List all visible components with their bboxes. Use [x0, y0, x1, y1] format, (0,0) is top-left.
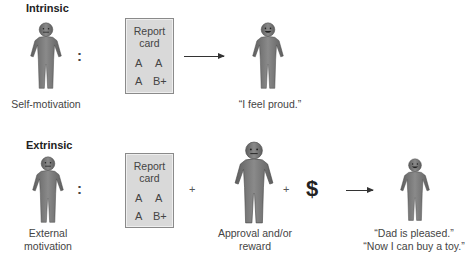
- dollar-icon: $: [306, 176, 318, 202]
- extrinsic-report-card: Report card A A A B+: [125, 153, 174, 228]
- extrinsic-colon: :: [77, 180, 82, 197]
- caption-line2: “Now I can buy a toy.”: [355, 240, 469, 253]
- self-motivation-caption: Self-motivation: [6, 98, 86, 111]
- grade: A: [135, 75, 142, 87]
- grade: B+: [153, 210, 167, 222]
- plus-sign: +: [189, 183, 195, 195]
- report-card-title-line2: card: [126, 37, 173, 49]
- grade: A: [155, 57, 162, 69]
- caption-line1: “Dad is pleased.”: [355, 227, 469, 240]
- pleased-person-icon: [399, 157, 431, 223]
- proud-caption: “I feel proud.”: [225, 98, 315, 111]
- self-motivation-person-icon: [29, 22, 63, 90]
- pleased-caption: “Dad is pleased.” “Now I can buy a toy.”: [355, 227, 469, 253]
- intrinsic-heading: Intrinsic: [26, 2, 69, 14]
- caption-line2: reward: [205, 240, 305, 253]
- grade: B+: [153, 75, 167, 87]
- intrinsic-report-card: Report card A A A B+: [125, 18, 174, 94]
- grade: A: [135, 192, 142, 204]
- grade: A: [155, 192, 162, 204]
- intrinsic-colon: :: [77, 47, 82, 64]
- caption-line1: Approval and/or: [205, 227, 305, 240]
- external-motivation-caption: External motivation: [8, 227, 88, 253]
- caption-line2: motivation: [8, 240, 88, 253]
- approver-person-icon: [230, 141, 278, 225]
- right-arrow-icon: [184, 56, 224, 57]
- proud-person-icon: [251, 22, 285, 90]
- report-card-title-line2: card: [126, 172, 173, 184]
- approval-caption: Approval and/or reward: [205, 227, 305, 253]
- report-card-title-line1: Report: [126, 25, 173, 37]
- grade: A: [135, 210, 142, 222]
- extrinsic-heading: Extrinsic: [26, 139, 72, 151]
- report-card-title: Report card: [126, 25, 173, 49]
- report-card-title: Report card: [126, 160, 173, 184]
- report-card-title-line1: Report: [126, 160, 173, 172]
- plus-sign: +: [283, 183, 289, 195]
- right-arrow-icon: [346, 190, 373, 191]
- caption-line1: External: [8, 227, 88, 240]
- grade: A: [135, 57, 142, 69]
- external-motivation-person-icon: [31, 156, 65, 224]
